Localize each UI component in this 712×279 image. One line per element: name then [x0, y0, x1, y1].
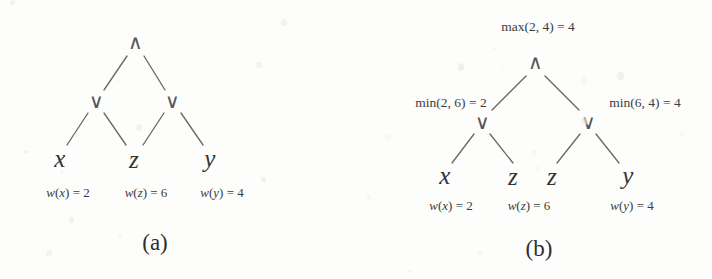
leaf-z1: z — [508, 164, 518, 189]
figure-panel-a: ∧∨∨xzyw(x) = 2w(z) = 6w(y) = 4 (a) — [0, 0, 356, 279]
root-max-annotation: max(2, 4) = 4 — [501, 20, 575, 34]
leaf-z2: z — [547, 164, 557, 189]
leaf-z: z — [129, 147, 139, 172]
left-or-min-annotation: min(2, 6) = 2 — [415, 96, 486, 110]
edge-right-or-to-y — [596, 134, 619, 163]
root-and-gate: ∧ — [528, 52, 543, 72]
leaf-y: y — [204, 146, 215, 171]
right-or-gate: ∨ — [165, 91, 180, 111]
weight-x: w(x) = 2 — [429, 199, 472, 212]
right-or-gate: ∨ — [581, 112, 596, 132]
weight-x: w(x) = 2 — [46, 186, 89, 199]
edge-right-or-to-y — [181, 113, 203, 145]
left-or-gate: ∨ — [475, 112, 490, 132]
weight-z: w(z) = 6 — [508, 199, 551, 212]
edge-left-or-to-x — [452, 134, 474, 163]
edge-root-to-right-or — [545, 76, 579, 110]
caption-a: (a) — [142, 231, 168, 254]
leaf-x: x — [439, 163, 450, 188]
edge-left-or-to-x — [67, 113, 88, 145]
edge-root-to-right-or — [144, 56, 165, 90]
edge-root-to-left-or — [492, 76, 526, 110]
leaf-x: x — [54, 146, 65, 171]
weight-y: w(y) = 4 — [610, 199, 653, 212]
edge-right-or-to-z — [557, 134, 580, 163]
figure-panel-b: ∧∨∨xzzyw(x) = 2w(z) = 6w(y) = 4max(2, 4)… — [356, 0, 712, 279]
edge-right-or-to-z — [143, 113, 164, 145]
weight-z: w(z) = 6 — [125, 186, 168, 199]
right-or-min-annotation: min(6, 4) = 4 — [609, 96, 680, 110]
caption-b: (b) — [526, 237, 553, 260]
edge-left-or-to-z — [490, 134, 513, 163]
figure-root: ∧∨∨xzyw(x) = 2w(z) = 6w(y) = 4 (a) ∧∨∨xz… — [0, 0, 712, 279]
leaf-y: y — [622, 163, 633, 188]
edge-root-to-left-or — [104, 56, 127, 90]
left-or-gate: ∨ — [89, 91, 104, 111]
tree-edges-a — [0, 0, 356, 279]
weight-y: w(y) = 4 — [200, 186, 243, 199]
root-and-gate: ∧ — [128, 32, 143, 52]
edge-left-or-to-z — [104, 113, 126, 145]
